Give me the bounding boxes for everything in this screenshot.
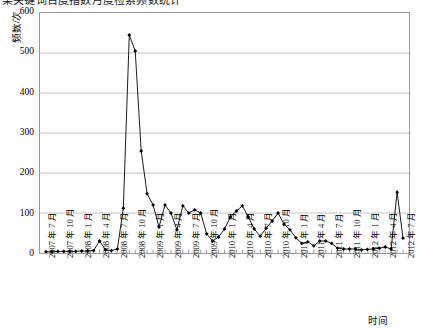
y-axis-tick-label: 100 — [0, 209, 34, 219]
y-axis-tick-label: 500 — [0, 47, 34, 57]
x-axis-tick-label: 2010 年 10 月 — [282, 208, 291, 258]
x-axis-tick-label: 2011 年 7 月 — [335, 213, 344, 258]
x-axis-tick-label: 2009 年 7 月 — [192, 212, 201, 258]
x-axis-tick-label: 2008 年 1 月 — [84, 212, 93, 258]
x-axis-tick-label: 2012 年 1 月 — [371, 212, 380, 258]
x-axis-tick-label: 2010 年 4 月 — [246, 212, 255, 258]
x-axis-tick-label: 2008 年 4 月 — [102, 212, 111, 258]
y-axis-tick-label: 400 — [0, 88, 34, 98]
y-axis-tick-label: 0 — [0, 249, 34, 259]
x-axis-tick-label: 2011 年 1 月 — [300, 213, 309, 258]
x-axis-tick-label: 2011 年 4 月 — [317, 213, 326, 258]
x-axis-tick-label: 2007 年 7 月 — [48, 212, 57, 258]
x-axis-tick-label: 2009 年 1 月 — [156, 212, 165, 258]
x-axis-title: 时间 — [368, 313, 388, 327]
y-axis-tick-label: 300 — [0, 128, 34, 138]
chart-page: 某关键词百度指数月度检索频数统计 频数/次 600500400300200100… — [0, 0, 421, 331]
x-axis-tick-label: 2007 年 10 月 — [66, 208, 75, 258]
x-axis-tick-label: 2010 年 1 月 — [228, 212, 237, 258]
x-axis-tick-label: 2008 年 10 月 — [138, 208, 147, 258]
y-axis-tick-label: 200 — [0, 168, 34, 178]
x-axis-tick-label: 2010 年 7 月 — [264, 212, 273, 258]
x-axis-tick-label: 2012 年 4 月 — [389, 212, 398, 258]
x-axis-tick-label: 2009 年 10 月 — [210, 208, 219, 258]
chart-title-cropped: 某关键词百度指数月度检索频数统计 — [0, 0, 421, 9]
x-axis-tick-label: 2011 年 10 月 — [353, 208, 362, 258]
x-axis-tick-label: 2012 年 7 月 — [407, 212, 416, 258]
x-axis-tick-label: 2008 年 7 月 — [120, 212, 129, 258]
y-axis-tick-label: 600 — [0, 7, 34, 17]
x-axis-tick-label: 2009 年 4 月 — [174, 212, 183, 258]
